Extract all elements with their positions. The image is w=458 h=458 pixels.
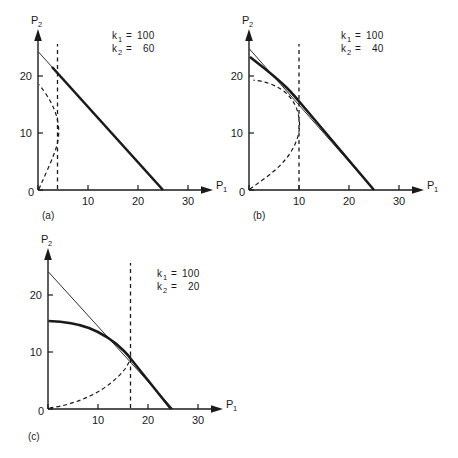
y-axis-label-b: P 2 — [242, 14, 253, 29]
svg-text:1: 1 — [434, 185, 438, 194]
reaction-curve-dashed-c — [50, 356, 131, 409]
x-tick-label-10: 10 — [293, 195, 305, 207]
y-axis-label-c: P 2 — [41, 233, 52, 248]
y-axis-a — [34, 29, 42, 190]
svg-text:=: = — [126, 43, 132, 54]
panel-b: 0 10 20 30 10 20 P 2 P 1 k — [229, 0, 458, 229]
svg-text:2: 2 — [163, 286, 167, 295]
y-tick-label-10: 10 — [30, 346, 42, 358]
svg-text:=: = — [171, 281, 177, 292]
figure-container: 0 10 20 30 10 20 P 2 P 1 — [0, 0, 458, 458]
svg-text:2: 2 — [48, 239, 52, 248]
svg-text:2: 2 — [118, 48, 122, 57]
svg-text:100: 100 — [366, 30, 384, 41]
annotation-k2-b: k 2 = 40 — [341, 43, 384, 57]
reaction-curve-dashed-a — [39, 85, 59, 189]
svg-text:2: 2 — [38, 20, 42, 29]
panel-c: 0 10 20 30 10 20 P 2 P 1 k — [0, 229, 280, 458]
efficient-frontier-thick-b — [250, 57, 374, 190]
panel-c-plot: 0 10 20 30 10 20 P 2 P 1 k — [0, 229, 280, 458]
x-axis-label-b: P 1 — [427, 179, 438, 194]
annotation-k1-a: k 1 = 100 — [112, 30, 155, 44]
x-tick-label-20: 20 — [142, 414, 154, 426]
x-axis-label-c: P 1 — [226, 398, 237, 413]
x-axis-b — [249, 186, 424, 194]
y-tick-label-20: 20 — [30, 289, 42, 301]
x-tick-label-10: 10 — [82, 195, 94, 207]
x-ticks-a — [38, 185, 188, 190]
y-ticks-b — [249, 76, 254, 190]
annotation-k2-a: k 2 = 60 — [112, 43, 155, 57]
annotation-k1-b: k 1 = 100 — [341, 30, 384, 44]
panel-label-b: (b) — [253, 210, 265, 221]
x-ticks-b — [249, 185, 399, 190]
svg-text:1: 1 — [233, 404, 237, 413]
svg-text:1: 1 — [163, 273, 167, 282]
svg-text:40: 40 — [372, 43, 384, 54]
x-tick-label-0: 0 — [28, 186, 34, 198]
svg-text:=: = — [171, 268, 177, 279]
svg-text:=: = — [355, 30, 361, 41]
annotation-k1-c: k 1 = 100 — [157, 268, 200, 282]
panel-b-plot: 0 10 20 30 10 20 P 2 P 1 k — [229, 0, 458, 229]
panel-a: 0 10 20 30 10 20 P 2 P 1 — [0, 0, 229, 229]
svg-text:2: 2 — [347, 48, 351, 57]
svg-text:=: = — [355, 43, 361, 54]
y-ticks-c — [48, 295, 53, 409]
y-tick-label-10: 10 — [231, 127, 243, 139]
x-tick-label-30: 30 — [192, 414, 204, 426]
y-tick-label-20: 20 — [231, 70, 243, 82]
panel-label-c: (c) — [28, 431, 40, 442]
x-tick-label-0: 0 — [38, 405, 44, 417]
x-axis-a — [38, 186, 213, 194]
efficient-frontier-thick-a — [52, 67, 163, 190]
svg-text:=: = — [126, 30, 132, 41]
y-axis-c — [44, 248, 52, 409]
svg-text:2: 2 — [249, 20, 253, 29]
x-tick-label-10: 10 — [92, 414, 104, 426]
y-tick-label-20: 20 — [20, 70, 32, 82]
svg-text:20: 20 — [188, 281, 200, 292]
x-tick-label-30: 30 — [182, 195, 194, 207]
x-tick-label-30: 30 — [393, 195, 405, 207]
x-tick-label-0: 0 — [239, 186, 245, 198]
panel-a-plot: 0 10 20 30 10 20 P 2 P 1 — [0, 0, 229, 229]
x-axis-c — [48, 405, 223, 413]
y-axis-b — [245, 29, 253, 190]
x-tick-label-20: 20 — [132, 195, 144, 207]
svg-text:100: 100 — [137, 30, 155, 41]
svg-text:100: 100 — [182, 268, 200, 279]
x-axis-label-a: P 1 — [216, 179, 227, 194]
x-ticks-c — [48, 404, 198, 409]
x-tick-label-20: 20 — [343, 195, 355, 207]
y-tick-label-10: 10 — [20, 127, 32, 139]
svg-text:1: 1 — [118, 35, 122, 44]
efficient-frontier-thick-c — [49, 321, 172, 409]
svg-text:1: 1 — [347, 35, 351, 44]
panel-label-a: (a) — [42, 210, 54, 221]
y-axis-label-a: P 2 — [31, 14, 42, 29]
reaction-curve-dashed-b — [250, 80, 300, 189]
svg-text:60: 60 — [143, 43, 155, 54]
svg-text:1: 1 — [223, 185, 227, 194]
y-ticks-a — [38, 76, 43, 190]
annotation-k2-c: k 2 = 20 — [157, 281, 200, 295]
